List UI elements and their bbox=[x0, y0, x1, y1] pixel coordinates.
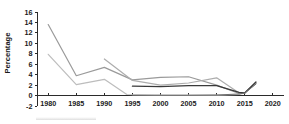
y-tick-label: 8 bbox=[29, 49, 33, 58]
line-chart: -202468101214161980198519901995200020052… bbox=[0, 0, 289, 124]
x-tick-label: 2005 bbox=[181, 99, 197, 108]
y-tick-label: 16 bbox=[25, 8, 33, 17]
series-line-3 bbox=[104, 59, 256, 93]
y-axis-title: Percentage bbox=[3, 33, 12, 74]
x-tick-label: 1980 bbox=[40, 99, 56, 108]
y-tick-label: 4 bbox=[29, 70, 33, 79]
chart-container: -202468101214161980198519901995200020052… bbox=[0, 0, 289, 124]
y-tick-label: 10 bbox=[25, 39, 33, 48]
y-tick-label: 2 bbox=[29, 81, 33, 90]
x-tick-label: 2000 bbox=[153, 99, 169, 108]
x-tick-label: 2010 bbox=[209, 99, 225, 108]
y-tick-label: 12 bbox=[25, 28, 33, 37]
x-tick-label: 1990 bbox=[96, 99, 112, 108]
y-tick-label: 0 bbox=[29, 91, 33, 100]
x-tick-label: 1995 bbox=[124, 99, 140, 108]
x-tick-label: 1985 bbox=[68, 99, 84, 108]
y-tick-label: -2 bbox=[26, 102, 32, 111]
x-tick-label: 2015 bbox=[237, 99, 253, 108]
x-tick-label: 2020 bbox=[265, 99, 281, 108]
y-tick-label: 14 bbox=[25, 18, 33, 27]
y-tick-label: 6 bbox=[29, 60, 33, 69]
legend-strip-partial bbox=[36, 117, 96, 120]
